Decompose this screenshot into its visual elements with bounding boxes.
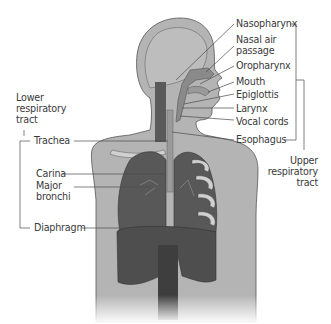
label-epiglottis: Epiglottis	[236, 89, 279, 100]
respiratory-diagram: Nasopharynx Nasal air passage Oropharynx…	[0, 0, 331, 324]
group-lower-line2: respiratory	[16, 103, 66, 114]
label-passage: passage	[236, 45, 274, 56]
group-upper-line3: tract	[262, 177, 318, 188]
label-nasal-air: Nasal air	[236, 34, 276, 45]
label-mouth: Mouth	[236, 76, 265, 87]
group-upper-line1: Upper	[262, 155, 318, 166]
label-carina: Carina	[36, 168, 66, 179]
trachea	[167, 110, 173, 192]
label-vocal-cords: Vocal cords	[236, 116, 288, 127]
group-lower-line3: tract	[16, 114, 38, 125]
label-oropharynx: Oropharynx	[236, 60, 291, 71]
group-lower-line1: Lower	[16, 92, 44, 103]
label-diaphragm: Diaphragm	[34, 222, 86, 233]
label-esophagus: Esophagus	[236, 134, 286, 145]
spinal-cord	[155, 82, 166, 142]
label-larynx: Larynx	[236, 103, 267, 114]
label-major: Major	[36, 180, 62, 191]
group-upper-line2: respiratory	[262, 166, 318, 177]
label-bronchi: bronchi	[36, 191, 70, 202]
label-trachea: Trachea	[34, 135, 70, 146]
label-nasopharynx: Nasopharynx	[236, 18, 297, 29]
